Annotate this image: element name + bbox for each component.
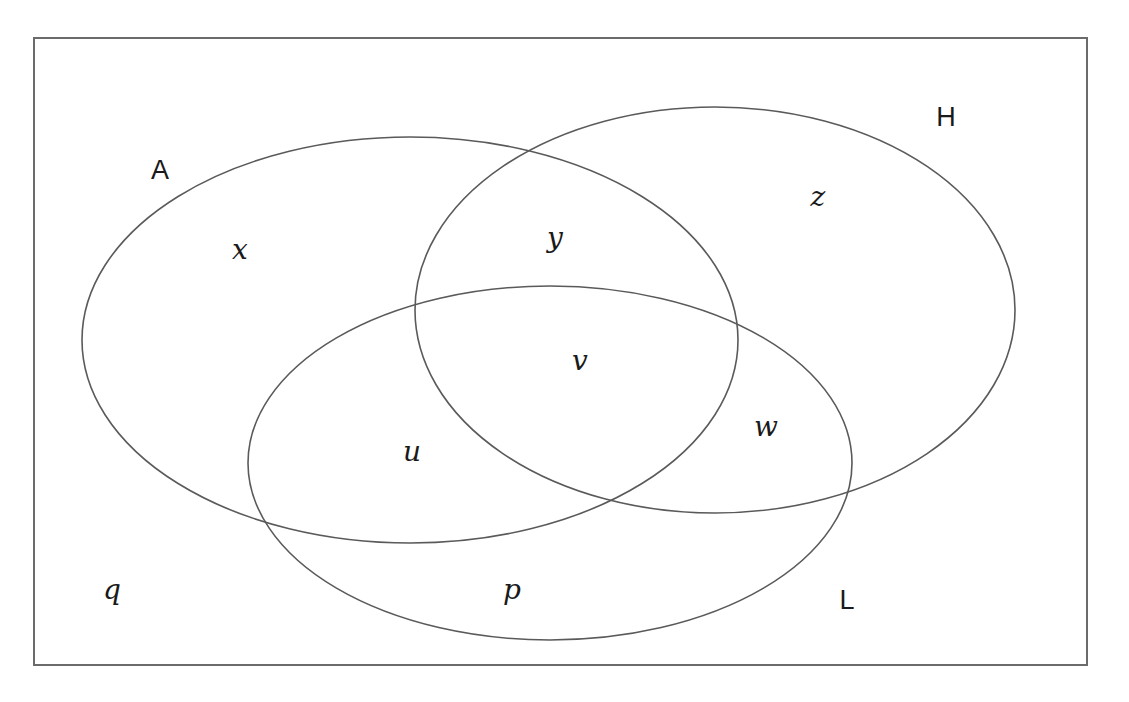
venn-shapes-layer [0,0,1129,702]
set-label-h: H [936,104,956,131]
region-label-p: p [503,576,521,604]
set-ellipse-h [415,107,1015,513]
set-ellipse-l [248,286,852,640]
region-label-y: y [547,224,563,252]
region-label-q: q [103,576,121,604]
universe-rectangle [34,38,1087,665]
region-label-z: z [811,183,826,211]
set-label-l: L [839,587,854,614]
region-label-w: w [754,413,778,441]
region-label-x: x [232,236,248,264]
set-label-a: A [151,157,169,184]
region-label-u: u [403,438,421,466]
set-ellipse-a [82,137,738,543]
region-label-v: v [572,347,588,375]
venn-diagram-canvas: A H L x y z v u w p q [0,0,1129,702]
